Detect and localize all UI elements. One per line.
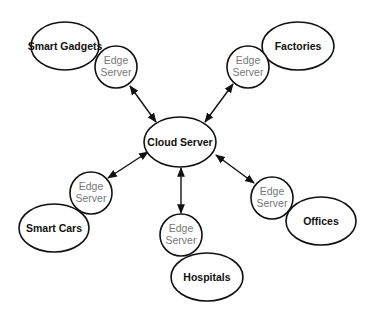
cluster-offices: Offices Edge Server — [251, 177, 356, 245]
cluster-hospitals: Hospitals Edge Server — [160, 214, 243, 301]
edge-server-cars-label-2: Server — [76, 192, 107, 204]
cluster-factories: Factories Edge Server — [227, 22, 334, 88]
edge-computing-diagram: Smart Gadgets Edge Server Factories Edge… — [0, 0, 376, 321]
edge-server-factories-label-1: Edge — [236, 54, 261, 66]
factories-label: Factories — [275, 40, 322, 52]
edge-server-gadgets-label-1: Edge — [104, 54, 129, 66]
edge-server-offices-label-2: Server — [257, 197, 288, 209]
link-cloud-to-edge-cars — [108, 152, 148, 178]
cluster-smart-gadgets: Smart Gadgets Edge Server — [28, 22, 137, 88]
edge-server-factories-label-2: Server — [233, 66, 264, 78]
cluster-smart-cars: Smart Cars Edge Server — [19, 172, 112, 252]
hospitals-label: Hospitals — [183, 271, 230, 283]
offices-label: Offices — [303, 215, 339, 227]
hub-cloud-server: Cloud Server — [144, 117, 216, 167]
edge-server-hospitals-label-1: Edge — [169, 222, 194, 234]
link-cloud-to-edge-gadgets — [130, 86, 156, 122]
edge-server-cars-label-1: Edge — [79, 180, 104, 192]
smart-gadgets-label: Smart Gadgets — [28, 40, 103, 52]
edge-server-gadgets-label-2: Server — [101, 66, 132, 78]
smart-cars-label: Smart Cars — [26, 222, 82, 234]
link-cloud-to-edge-offices — [216, 155, 254, 183]
cloud-server-label: Cloud Server — [147, 136, 212, 148]
edge-server-offices-label-1: Edge — [260, 185, 285, 197]
edge-server-hospitals-label-2: Server — [166, 234, 197, 246]
link-cloud-to-edge-factories — [205, 84, 233, 122]
